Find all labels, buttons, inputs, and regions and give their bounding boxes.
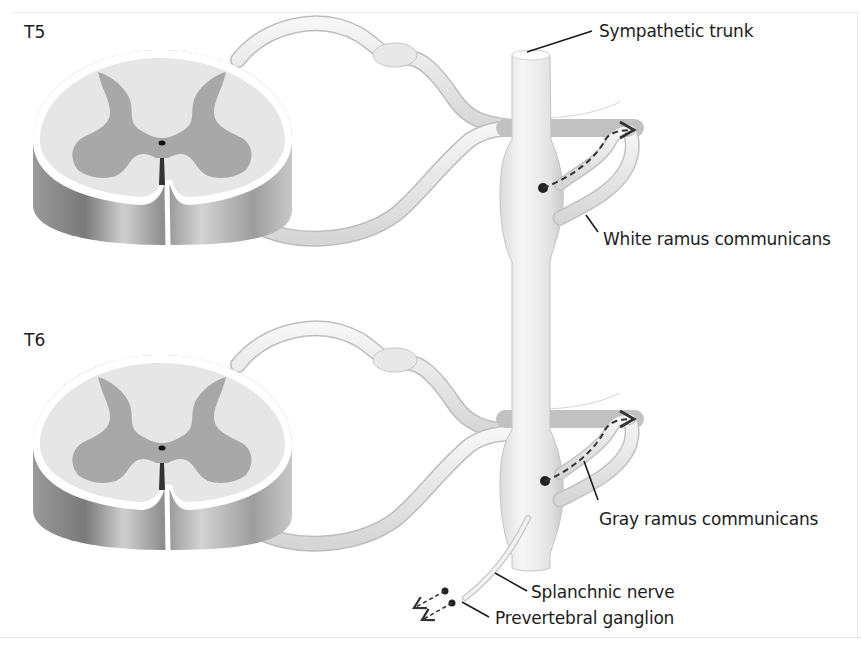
dorsal-root-ganglion [373, 43, 417, 67]
pathway-arrow-icon [414, 591, 445, 608]
label-white-ramus-communicans: White ramus communicans [603, 229, 831, 249]
anterior-median-fissure [159, 158, 165, 185]
pathway-arrow-icon [422, 603, 452, 620]
label-gray-ramus-communicans: Gray ramus communicans [599, 509, 818, 529]
sympathetic-diagram [0, 0, 861, 653]
label-sympathetic-trunk: Sympathetic trunk [599, 21, 753, 41]
segment-label-t6: T6 [24, 330, 45, 350]
label-splanchnic-nerve: Splanchnic nerve [531, 582, 674, 602]
central-canal [159, 141, 166, 146]
label-prevertebral-ganglion: Prevertebral ganglion [495, 608, 674, 628]
spinal-cord-section [33, 50, 292, 245]
segment-label-t5: T5 [24, 22, 45, 42]
